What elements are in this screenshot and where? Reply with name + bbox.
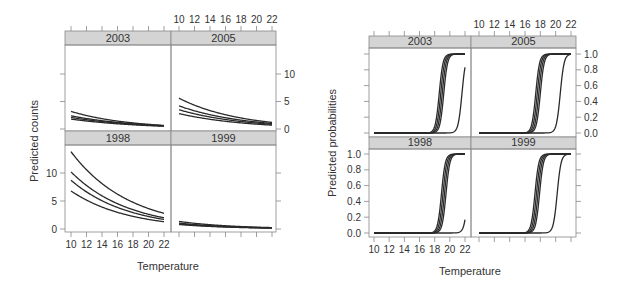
x-tick-label: 18 — [235, 14, 247, 25]
x-tick-label: 14 — [504, 19, 516, 30]
strip-label: 1999 — [211, 132, 235, 144]
y-tick-label: 10 — [46, 168, 58, 179]
y-tick-label: 5 — [51, 196, 57, 207]
panel-2003: 2003 — [369, 35, 471, 137]
y-tick-label: 0.6 — [347, 180, 361, 191]
x-tick-label: 12 — [384, 244, 396, 255]
y-axis-label: Predicted counts — [28, 100, 40, 182]
y-tick-label: 0.4 — [347, 196, 361, 207]
strip-label: 1998 — [106, 132, 130, 144]
y-tick-label: 0.0 — [584, 128, 598, 139]
series-lines — [179, 98, 272, 125]
y-tick-label: 0.4 — [584, 96, 598, 107]
x-tick-label: 22 — [459, 244, 471, 255]
series-line — [374, 154, 465, 233]
y-tick-label: 0.8 — [347, 164, 361, 175]
predicted-counts-chart: Predicted counts Temperature 20032005199… — [28, 14, 296, 272]
figure: Predicted counts Temperature 20032005199… — [0, 0, 620, 290]
x-axis-label: Temperature — [439, 265, 501, 277]
strip-label: 2005 — [211, 32, 235, 44]
plot-frame — [369, 149, 471, 237]
x-tick-label: 16 — [519, 19, 531, 30]
series-line — [374, 154, 465, 233]
series-lines — [71, 111, 164, 126]
series-line — [374, 54, 465, 133]
y-tick-label: 10 — [284, 69, 296, 80]
panel-grid: 2003200519981999101214161820221012141618… — [46, 14, 296, 250]
x-tick-label: 10 — [473, 19, 485, 30]
series-lines — [479, 154, 571, 233]
strip-label: 2003 — [106, 32, 130, 44]
series-line — [479, 54, 571, 133]
x-tick-label: 22 — [266, 14, 278, 25]
series-lines — [374, 154, 465, 233]
x-tick-label: 20 — [143, 239, 155, 250]
y-axis-label: Predicted probabilities — [326, 88, 338, 197]
x-tick-label: 20 — [251, 14, 263, 25]
strip-label: 2003 — [408, 35, 432, 47]
series-line — [374, 67, 465, 133]
plot-frame — [171, 45, 276, 131]
panel-2003: 2003 — [65, 31, 171, 131]
plot-frame — [471, 149, 576, 237]
panel-grid: 2003200519981999101214161820221012141618… — [347, 19, 598, 255]
y-tick-label: 1.0 — [584, 49, 598, 60]
panel-1998: 1998 — [369, 136, 471, 237]
x-tick-label: 10 — [65, 239, 77, 250]
y-tick-label: 0.2 — [347, 212, 361, 223]
x-tick-label: 16 — [220, 14, 232, 25]
series-line — [374, 54, 465, 133]
y-tick-label: 1.0 — [347, 149, 361, 160]
x-tick-label: 18 — [535, 19, 547, 30]
strip-label: 1998 — [408, 136, 432, 148]
panel-2005: 2005 — [171, 31, 276, 131]
panel-1999: 1999 — [471, 136, 576, 237]
x-tick-label: 12 — [81, 239, 93, 250]
x-tick-label: 14 — [399, 244, 411, 255]
panel-1998: 1998 — [65, 131, 171, 232]
series-line — [374, 220, 465, 233]
x-tick-label: 14 — [204, 14, 216, 25]
series-line — [374, 54, 465, 133]
strip-label: 2005 — [511, 35, 535, 47]
x-tick-label: 20 — [550, 19, 562, 30]
x-tick-label: 18 — [429, 244, 441, 255]
series-line — [374, 154, 465, 233]
series-lines — [479, 54, 571, 133]
panel-1999: 1999 — [171, 131, 276, 232]
x-tick-label: 16 — [112, 239, 124, 250]
x-tick-label: 18 — [127, 239, 139, 250]
x-tick-label: 22 — [158, 239, 170, 250]
series-lines — [71, 152, 164, 222]
series-line — [479, 154, 571, 233]
y-tick-label: 0 — [51, 224, 57, 235]
x-tick-label: 22 — [565, 19, 577, 30]
x-tick-label: 12 — [189, 14, 201, 25]
x-axis-label: Temperature — [137, 260, 199, 272]
panel-2005: 2005 — [471, 35, 576, 137]
x-tick-label: 12 — [489, 19, 501, 30]
y-tick-label: 0 — [284, 124, 290, 135]
x-tick-label: 14 — [96, 239, 108, 250]
y-tick-label: 0.2 — [584, 112, 598, 123]
series-lines — [374, 54, 465, 133]
x-tick-label: 10 — [368, 244, 380, 255]
y-tick-label: 5 — [284, 96, 290, 107]
series-line — [374, 154, 465, 233]
plot-frame — [171, 145, 276, 232]
y-tick-label: 0.6 — [584, 80, 598, 91]
series-line — [374, 54, 465, 133]
predicted-probabilities-chart: Predicted probabilities Temperature 2003… — [326, 19, 598, 277]
y-tick-label: 0.8 — [584, 64, 598, 75]
series-lines — [179, 221, 272, 228]
plot-frame — [369, 48, 471, 137]
y-tick-label: 0.0 — [347, 228, 361, 239]
x-tick-label: 10 — [173, 14, 185, 25]
strip-label: 1999 — [511, 136, 535, 148]
x-tick-label: 16 — [414, 244, 426, 255]
x-tick-label: 20 — [444, 244, 456, 255]
